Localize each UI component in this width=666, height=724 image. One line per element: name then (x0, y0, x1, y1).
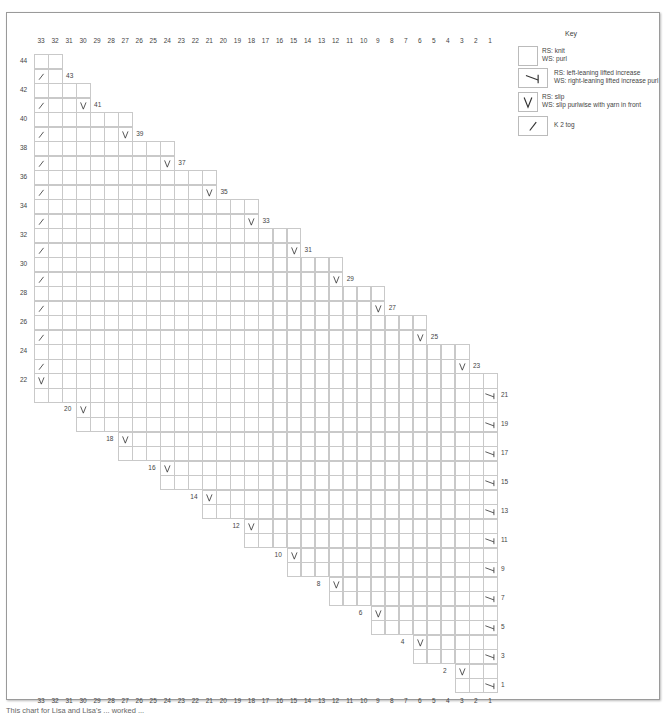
chart-cell (132, 315, 147, 330)
chart-cell (343, 519, 358, 534)
chart-cell (483, 461, 498, 476)
row-label: 16 (148, 464, 155, 472)
chart-cell (343, 344, 358, 359)
chart-cell (216, 461, 231, 476)
chart-cell (188, 330, 203, 345)
chart-cell (202, 243, 217, 258)
chart-cell (301, 388, 316, 403)
chart-cell (329, 359, 344, 374)
chart-cell (483, 562, 498, 577)
chart-cell (315, 475, 330, 490)
chart-cell (174, 446, 189, 461)
chart-cell (287, 461, 302, 476)
chart-cell (48, 170, 63, 185)
column-label-top: 23 (174, 37, 188, 45)
chart-cell (216, 272, 231, 287)
chart-cell (34, 83, 49, 98)
chart-cell (146, 446, 161, 461)
chart-cell (34, 69, 49, 84)
chart-cell (469, 533, 484, 548)
chart-cell (216, 417, 231, 432)
chart-cell (413, 635, 428, 650)
chart-cell (48, 359, 63, 374)
chart-cell (357, 286, 372, 301)
chart-cell (48, 257, 63, 272)
column-label-top: 6 (413, 37, 427, 45)
blank-square-icon (518, 46, 538, 66)
k2tog-slash-icon (35, 244, 48, 257)
row-label: 34 (20, 202, 27, 210)
chart-cell (188, 185, 203, 200)
chart-cell (357, 432, 372, 447)
chart-cell (48, 344, 63, 359)
chart-cell (441, 620, 456, 635)
chart-cell (483, 635, 498, 650)
chart-cell (202, 373, 217, 388)
chart-cell (427, 475, 442, 490)
chart-cell (427, 344, 442, 359)
chart-cell (146, 417, 161, 432)
key-title: Key (565, 30, 577, 37)
row-label: 10 (275, 551, 282, 559)
chart-cell (160, 141, 175, 156)
chart-cell (160, 286, 175, 301)
chart-cell (160, 214, 175, 229)
chart-cell (413, 446, 428, 461)
chart-cell (244, 475, 259, 490)
chart-cell (413, 504, 428, 519)
column-label-bottom: 6 (413, 697, 427, 705)
chart-cell (216, 330, 231, 345)
chart-cell (104, 315, 119, 330)
chart-cell (441, 344, 456, 359)
chart-cell (399, 548, 414, 563)
column-label-bottom: 4 (441, 697, 455, 705)
chart-cell (357, 373, 372, 388)
chart-cell (216, 228, 231, 243)
chart-cell (287, 257, 302, 272)
chart-cell (104, 417, 119, 432)
chart-cell (76, 228, 91, 243)
chart-caption: This chart for Lisa and Lisa's ... worke… (6, 706, 144, 715)
chart-cell (413, 359, 428, 374)
chart-cell (329, 577, 344, 592)
row-label: 30 (20, 260, 27, 268)
chart-cell (427, 591, 442, 606)
chart-cell (357, 417, 372, 432)
chart-cell (455, 388, 470, 403)
chart-cell (244, 373, 259, 388)
chart-cell (244, 199, 259, 214)
column-label-bottom: 3 (455, 697, 469, 705)
chart-cell (146, 286, 161, 301)
chart-cell (371, 490, 386, 505)
chart-cell (132, 199, 147, 214)
chart-cell (385, 461, 400, 476)
chart-cell (118, 127, 133, 142)
chart-cell (315, 562, 330, 577)
chart-cell (455, 635, 470, 650)
chart-cell (287, 490, 302, 505)
column-label-top: 27 (118, 37, 132, 45)
chart-cell (329, 548, 344, 563)
chart-cell (118, 446, 133, 461)
row-label: 43 (66, 72, 73, 80)
chart-cell (371, 533, 386, 548)
chart-cell (76, 185, 91, 200)
chart-cell (258, 228, 273, 243)
chart-cell (160, 228, 175, 243)
chart-cell (34, 286, 49, 301)
chart-cell (427, 388, 442, 403)
chart-cell (273, 533, 288, 548)
chart-cell (48, 127, 63, 142)
chart-cell (427, 432, 442, 447)
chart-cell (455, 533, 470, 548)
chart-cell (343, 402, 358, 417)
row-label: 9 (501, 565, 505, 573)
chart-cell (441, 649, 456, 664)
chart-cell (160, 199, 175, 214)
row-label: 31 (305, 246, 312, 254)
chart-cell (174, 272, 189, 287)
chart-cell (188, 461, 203, 476)
chart-cell (385, 519, 400, 534)
chart-cell (301, 359, 316, 374)
chart-cell (216, 286, 231, 301)
